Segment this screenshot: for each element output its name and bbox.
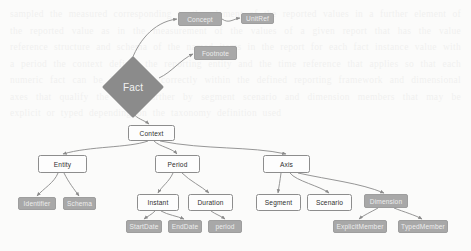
node-entity[interactable]: Entity xyxy=(38,155,87,173)
node-label-schema: Schema xyxy=(67,200,92,207)
node-schema[interactable]: Schema xyxy=(63,197,96,210)
edge-dimension-to-explicitmember xyxy=(359,208,378,219)
edge-dimension-to-typedmember xyxy=(394,208,422,219)
edge-axis-to-scenario xyxy=(290,173,329,193)
edge-duration-to-period_attr xyxy=(211,211,225,219)
node-period_attr[interactable]: period xyxy=(208,220,242,233)
node-label-context: Context xyxy=(140,130,164,137)
node-label-unitref: UnitRef xyxy=(246,15,269,22)
edge-fact-to-footnote xyxy=(159,54,193,78)
node-label-period_attr: period xyxy=(215,223,234,230)
node-label-period: Period xyxy=(168,161,188,168)
node-explicitmember[interactable]: ExplicitMember xyxy=(333,220,387,233)
edge-context-to-axis xyxy=(160,141,286,154)
node-label-startdate: StartDate xyxy=(129,223,158,230)
node-context[interactable]: Context xyxy=(128,125,175,141)
node-label-footnote: Footnote xyxy=(202,50,229,57)
node-enddate[interactable]: EndDate xyxy=(168,220,202,233)
node-fact[interactable]: Fact xyxy=(102,56,164,118)
node-startdate[interactable]: StartDate xyxy=(126,220,162,233)
edge-axis-to-segment xyxy=(278,173,281,193)
node-identifier[interactable]: Identifier xyxy=(18,197,56,210)
node-segment[interactable]: Segment xyxy=(256,194,301,211)
node-unitref[interactable]: UnitRef xyxy=(241,13,274,24)
node-duration[interactable]: Duration xyxy=(188,194,233,211)
node-label-typedmember: TypedMember xyxy=(401,223,445,230)
node-instant[interactable]: Instant xyxy=(137,194,179,211)
node-period[interactable]: Period xyxy=(155,155,200,173)
node-scenario[interactable]: Scenario xyxy=(307,194,352,211)
node-label-concept: Concept xyxy=(187,16,213,23)
edge-concept-to-unitref xyxy=(222,18,240,21)
edge-period-to-duration xyxy=(182,173,209,193)
edge-entity-to-identifier xyxy=(37,173,58,196)
node-axis[interactable]: Axis xyxy=(263,155,310,173)
node-dimension[interactable]: Dimension xyxy=(364,194,408,208)
node-typedmember[interactable]: TypedMember xyxy=(398,220,448,233)
edge-context-to-entity xyxy=(63,141,148,154)
node-label-duration: Duration xyxy=(197,199,223,206)
node-label-scenario: Scenario xyxy=(316,199,343,206)
node-label-explicitmember: ExplicitMember xyxy=(336,223,383,230)
node-footnote[interactable]: Footnote xyxy=(194,46,237,60)
edge-entity-to-schema xyxy=(64,173,79,196)
diagram-canvas: sampled the measured corresponding to th… xyxy=(0,0,471,251)
node-label-axis: Axis xyxy=(280,161,293,168)
node-label-entity: Entity xyxy=(54,161,71,168)
node-label-identifier: Identifier xyxy=(24,200,51,207)
node-label-fact: Fact xyxy=(123,82,143,93)
node-concept[interactable]: Concept xyxy=(178,12,222,26)
edge-period-to-instant xyxy=(158,173,173,193)
node-label-segment: Segment xyxy=(265,199,292,206)
edge-axis-to-dimension xyxy=(298,173,384,193)
edge-instant-to-enddate xyxy=(161,211,184,219)
node-label-enddate: EndDate xyxy=(172,223,199,230)
node-label-instant: Instant xyxy=(148,199,169,206)
edge-layer xyxy=(0,0,471,251)
edge-instant-to-startdate xyxy=(144,211,155,219)
node-label-dimension: Dimension xyxy=(370,198,403,205)
